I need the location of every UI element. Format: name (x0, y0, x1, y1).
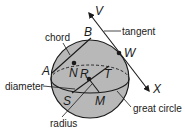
label-radius: radius (50, 118, 77, 129)
point-N-dot (72, 61, 77, 66)
label-N: N (69, 66, 78, 80)
label-R: R (80, 67, 89, 81)
label-B: B (84, 25, 92, 39)
label-chord: chord (45, 32, 70, 43)
label-tangent: tangent (122, 26, 156, 37)
label-W: W (124, 46, 137, 60)
point-W-dot (117, 51, 122, 56)
label-V: V (95, 4, 104, 18)
label-S: S (63, 94, 71, 108)
label-diameter: diameter (5, 81, 45, 92)
sphere-diagram: V B W A N R T S M X chord tangent diamet… (0, 0, 185, 131)
label-M: M (95, 94, 105, 108)
label-great-circle: great circle (133, 103, 182, 114)
label-X: X (152, 82, 162, 96)
label-A: A (41, 64, 50, 78)
